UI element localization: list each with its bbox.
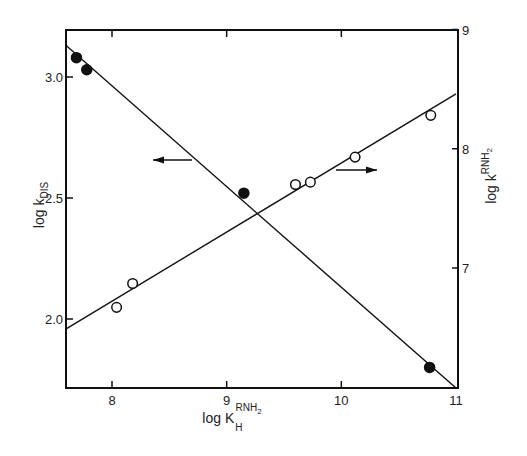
right-arrow-head-icon [366, 167, 377, 174]
plot-frame [66, 30, 458, 388]
x-axis-title: log KHRNH2 [202, 402, 262, 433]
dual-axis-scatter-chart: 891011 3.02.52.0 987 log KHRNH2 log kDIS… [0, 0, 527, 456]
fit-line-series-1 [66, 94, 456, 329]
filled-data-point [82, 65, 92, 75]
open-data-point [112, 303, 122, 313]
x-tick-label: 10 [334, 393, 348, 408]
left-y-tick-label: 2.0 [45, 312, 63, 327]
right-y-tick-label: 8 [462, 142, 469, 157]
x-axis-ticks: 891011 [108, 30, 462, 408]
right-y-axis-ticks: 987 [452, 23, 469, 277]
x-tick-label: 11 [449, 393, 463, 408]
data-points [71, 53, 435, 373]
open-data-point [306, 177, 316, 187]
open-data-point [426, 111, 436, 121]
filled-data-point [425, 362, 435, 372]
left-arrow-head-icon [153, 157, 164, 164]
x-tick-label: 8 [108, 393, 115, 408]
filled-data-point [239, 188, 249, 198]
open-data-point [128, 279, 138, 289]
fit-lines [66, 46, 456, 388]
right-y-tick-label: 9 [462, 23, 469, 38]
open-data-point [350, 152, 360, 162]
right-y-axis-title: log kRNH2 [480, 148, 499, 204]
open-data-point [291, 180, 301, 190]
right-y-tick-label: 7 [462, 261, 469, 276]
axis-indicator-arrows [153, 157, 377, 174]
fit-line-series-0 [66, 46, 456, 388]
filled-data-point [71, 53, 81, 63]
left-y-tick-label: 3.0 [45, 70, 63, 85]
x-tick-label: 9 [223, 393, 230, 408]
